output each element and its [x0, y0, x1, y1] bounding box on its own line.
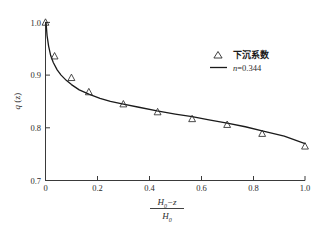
x-axis-label-numerator-rest: −z [167, 197, 177, 207]
x-tick-label-3: 0.6 [196, 183, 207, 193]
x-tick-label-4: 0.8 [248, 183, 259, 193]
x-tick-label-1: 0.2 [92, 183, 103, 193]
figure-background [0, 0, 326, 228]
y-axis-label-arg: (z) [12, 93, 22, 105]
y-tick-label-3: 1.0 [30, 18, 41, 28]
y-tick-label-1: 0.8 [30, 123, 41, 133]
svg-text:q (z): q (z) [12, 93, 22, 110]
svg-text:H0−z: H0−z [156, 197, 177, 209]
legend-label-exponent-suffix: =0.344 [237, 63, 262, 73]
svg-text:n=0.344: n=0.344 [233, 63, 262, 73]
y-axis-label: q (z) [12, 93, 22, 110]
x-tick-label-0: 0 [43, 183, 47, 193]
x-axis-label-denominator-sub: 0 [169, 217, 172, 223]
y-tick-label-2: 0.9 [30, 70, 41, 80]
legend-label-subsidence-coefficient: 下沉系数 [233, 49, 270, 60]
y-tick-label-0: 0.7 [30, 176, 41, 186]
chart-figure: 0.7 0.8 0.9 1.0 0 0.2 0.4 0.6 0.8 1.0 q … [0, 0, 326, 228]
x-tick-label-5: 1.0 [300, 183, 311, 193]
x-tick-label-2: 0.4 [144, 183, 155, 193]
